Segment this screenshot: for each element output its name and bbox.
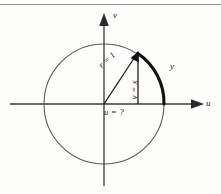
u-axis-label: u <box>206 99 211 108</box>
v-axis-label: v <box>113 11 117 20</box>
u-axis-arrowhead-icon <box>191 99 204 109</box>
arc-length-label: y <box>170 62 174 71</box>
v-axis-arrowhead-icon <box>99 13 109 26</box>
figure-canvas <box>0 0 221 194</box>
unit-circle-figure: v u r = 1 v = x u = ? y <box>0 0 221 194</box>
vertical-leg-label: v = x <box>130 80 139 99</box>
arc-length-y-path <box>138 53 164 104</box>
horizontal-leg-label: u = ? <box>104 108 124 117</box>
